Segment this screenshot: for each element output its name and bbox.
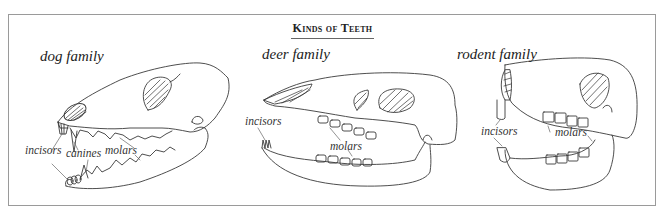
deer-skull-drawing — [258, 73, 457, 186]
deer-molars-label: molars — [330, 140, 362, 152]
dog-family-heading: dog family — [40, 48, 104, 65]
deer-family-heading: deer family — [262, 46, 330, 63]
rodent-skull-drawing — [494, 58, 637, 190]
rodent-molars-label: molars — [555, 126, 587, 138]
dog-molars-label: molars — [105, 144, 137, 156]
dog-incisors-label: incisors — [25, 144, 61, 156]
rodent-family-heading: rodent family — [457, 46, 537, 63]
skull-illustrations — [0, 0, 665, 216]
dog-skull-drawing — [52, 63, 229, 189]
deer-incisors-label: incisors — [245, 115, 281, 127]
rodent-incisors-label: incisors — [481, 125, 517, 137]
dog-canines-label: canines — [66, 147, 101, 159]
